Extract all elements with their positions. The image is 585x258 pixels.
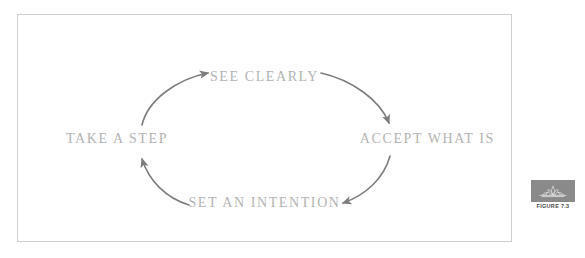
figure-container: SEE CLEARLY ACCEPT WHAT IS SET AN INTENT… — [0, 0, 585, 258]
arrow-intention-to-step — [142, 159, 189, 205]
arrow-see-to-accept — [321, 73, 389, 123]
diagram-frame: SEE CLEARLY ACCEPT WHAT IS SET AN INTENT… — [17, 14, 512, 242]
cycle-step-set-an-intention: SET AN INTENTION — [188, 196, 340, 210]
figure-caption: FIGURE 7.3 — [531, 204, 575, 210]
arrow-step-to-see — [142, 73, 208, 125]
cycle-step-accept-what-is: ACCEPT WHAT IS — [360, 132, 495, 146]
lotus-ornament-icon — [536, 184, 570, 199]
cycle-step-see-clearly: SEE CLEARLY — [210, 70, 319, 84]
cycle-step-take-a-step: TAKE A STEP — [66, 132, 168, 146]
figure-badge — [531, 180, 575, 202]
arrow-accept-to-intention — [343, 156, 390, 203]
